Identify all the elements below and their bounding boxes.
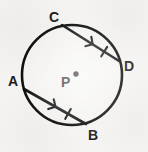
label-point-b: B [88,128,98,142]
geometry-figure: C D A B P [0,0,148,152]
geometry-canvas [0,0,148,152]
label-point-c: C [49,10,59,24]
label-center-p: P [61,75,70,89]
label-point-a: A [8,74,18,88]
circle-outline [22,25,122,125]
center-point-dot [73,71,78,76]
label-point-d: D [124,59,134,73]
